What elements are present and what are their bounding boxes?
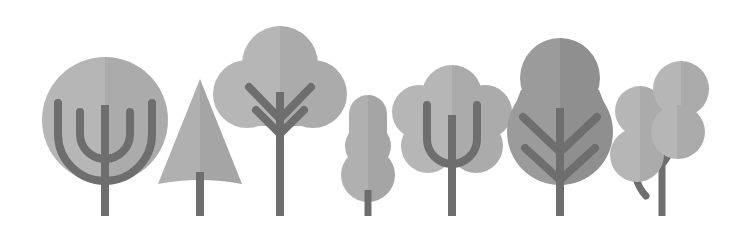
tree-illustration-canvas: [0, 0, 736, 241]
blob-mid-right: [651, 105, 705, 159]
tree-set-svg: [0, 0, 736, 241]
